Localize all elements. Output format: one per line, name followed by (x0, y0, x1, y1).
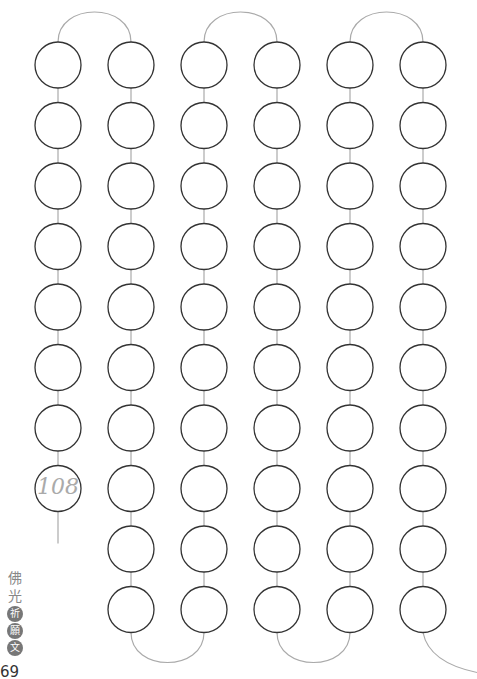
bead (400, 466, 446, 512)
bead (108, 466, 154, 512)
bead (327, 103, 373, 149)
bead (327, 587, 373, 633)
bead (181, 42, 227, 88)
bead (400, 103, 446, 149)
bead (254, 345, 300, 391)
bead (181, 526, 227, 572)
page-number: 69 (0, 663, 19, 679)
bead (108, 42, 154, 88)
bead (181, 345, 227, 391)
bead (254, 103, 300, 149)
title-char: 佛 (8, 570, 22, 587)
side-title: 佛 光 祈 願 文 (4, 570, 26, 656)
bead (327, 345, 373, 391)
bead (181, 103, 227, 149)
bead (254, 284, 300, 330)
bead (400, 526, 446, 572)
bead-chart (0, 0, 477, 679)
title-char: 光 (8, 588, 22, 605)
bead (35, 103, 81, 149)
bead (254, 42, 300, 88)
bead (327, 42, 373, 88)
bead (254, 405, 300, 451)
bead (400, 163, 446, 209)
bead (181, 224, 227, 270)
bead (400, 224, 446, 270)
bead (400, 284, 446, 330)
bead (108, 405, 154, 451)
bead (35, 163, 81, 209)
bead (35, 224, 81, 270)
bead (327, 163, 373, 209)
title-char: 願 (7, 623, 23, 639)
bead (108, 526, 154, 572)
bead (254, 587, 300, 633)
bead (108, 163, 154, 209)
bead (327, 405, 373, 451)
bead (181, 163, 227, 209)
bead (108, 587, 154, 633)
bead (35, 284, 81, 330)
bead (181, 587, 227, 633)
bead (254, 466, 300, 512)
bead (400, 405, 446, 451)
bead (181, 284, 227, 330)
bead (400, 42, 446, 88)
bead (35, 42, 81, 88)
bead (108, 345, 154, 391)
bead (254, 163, 300, 209)
bead (327, 284, 373, 330)
bead (35, 405, 81, 451)
bead (254, 526, 300, 572)
bead (108, 224, 154, 270)
bead (400, 587, 446, 633)
bead (108, 103, 154, 149)
bead (400, 345, 446, 391)
bead (108, 284, 154, 330)
bead (181, 466, 227, 512)
bead (327, 466, 373, 512)
bead (35, 345, 81, 391)
bead (327, 526, 373, 572)
title-char: 文 (7, 640, 23, 656)
title-char: 祈 (7, 606, 23, 622)
bead (181, 405, 227, 451)
bead (327, 224, 373, 270)
bead (254, 224, 300, 270)
bead-count-label: 108 (35, 474, 81, 499)
